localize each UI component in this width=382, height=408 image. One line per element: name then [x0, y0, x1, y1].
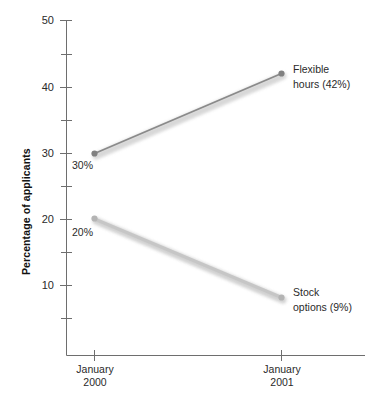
x-tick-label-2001-line1: January	[237, 363, 327, 375]
series-label-stock-line1: Stock	[293, 285, 319, 299]
series-label-flexible-line2: hours (42%)	[293, 77, 350, 91]
y-axis-title: Percentage of applicants	[20, 148, 32, 275]
series-label-flexible-line1: Flexible	[293, 62, 329, 76]
series-label-stock-line2: options (9%)	[293, 300, 352, 314]
annotation-flexible-start: 30%	[72, 159, 93, 171]
y-tick-label-40: 40	[28, 81, 54, 94]
annotation-stock-start: 20%	[72, 226, 93, 238]
y-tick-label-50: 50	[28, 14, 54, 27]
series-stock-options	[91, 215, 284, 300]
line-chart: 50 40 30 20 10 Percentage of applicants …	[0, 0, 382, 408]
x-tick-label-2001-line2: 2001	[237, 376, 327, 388]
series-flexible-hours	[91, 70, 284, 156]
y-tick-label-10: 10	[28, 279, 54, 292]
x-tick-label-2000-line1: January	[50, 363, 140, 375]
x-tick-label-2000-line2: 2000	[50, 376, 140, 388]
